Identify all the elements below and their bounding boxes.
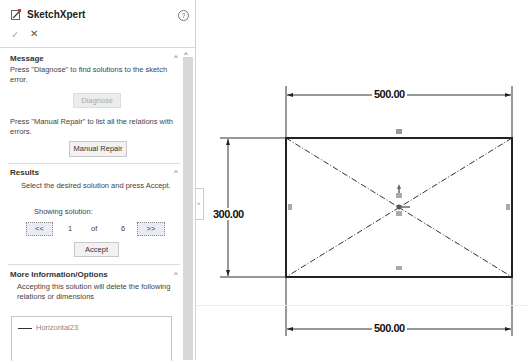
- total-solutions: 6: [121, 224, 125, 234]
- panel-collapse-tab[interactable]: »: [196, 188, 204, 220]
- vertical-relation-icon: [288, 204, 292, 210]
- divider: [8, 163, 180, 164]
- chevron-up-icon[interactable]: ^: [174, 270, 178, 279]
- panel-title: SketchXpert: [27, 9, 85, 20]
- dimension-top-value[interactable]: 500.00: [372, 88, 407, 100]
- manual-repair-text: Press "Manual Repair" to list all the re…: [10, 117, 180, 137]
- sketchxpert-icon: [11, 9, 22, 20]
- collapse-icon: »: [197, 200, 200, 206]
- of-label: of: [91, 224, 97, 234]
- relations-listbox[interactable]: Horizontal23: [11, 316, 172, 361]
- divider: [0, 47, 195, 48]
- message-section-title: Message: [10, 54, 44, 63]
- list-item[interactable]: Horizontal23: [18, 323, 78, 332]
- showing-solution-label: Showing solution:: [34, 207, 93, 217]
- previous-solution-button[interactable]: <<: [26, 222, 53, 236]
- chevron-up-icon[interactable]: ^: [174, 168, 178, 177]
- manual-repair-button[interactable]: Manual Repair: [69, 141, 127, 157]
- sketchxpert-panel: SketchXpert ? ✓ ✕ Message ^ Press "Diagn…: [0, 0, 196, 360]
- results-instruction: Select the desired solution and press Ac…: [21, 181, 181, 191]
- message-text: Press "Diagnose" to find solutions to th…: [10, 65, 180, 85]
- close-icon[interactable]: ✕: [30, 28, 38, 39]
- vertical-relation-icon: [506, 204, 510, 210]
- list-item-label: Horizontal23: [36, 323, 78, 332]
- next-solution-button[interactable]: >>: [137, 222, 165, 236]
- chevron-up-icon[interactable]: ^: [174, 53, 178, 62]
- results-section-title: Results: [10, 168, 39, 177]
- current-solution: 1: [68, 224, 72, 234]
- accept-button[interactable]: Accept: [74, 242, 119, 257]
- horizontal-relation-icon: [18, 328, 32, 329]
- divider: [8, 264, 180, 265]
- more-info-section-title: More Information/Options: [10, 270, 108, 279]
- more-info-text: Accepting this solution will delete the …: [17, 282, 177, 302]
- dimension-bottom-value[interactable]: 500.00: [372, 322, 407, 334]
- panel-titlebar: SketchXpert ?: [0, 0, 195, 30]
- parallel-relation-icon: [396, 129, 402, 134]
- horizontal-relation-icon: [396, 266, 402, 270]
- scrollbar[interactable]: [183, 57, 193, 360]
- diagnose-button[interactable]: Diagnose: [73, 93, 121, 108]
- checkmark-icon[interactable]: ✓: [11, 29, 19, 40]
- help-icon[interactable]: ?: [178, 10, 189, 21]
- dimension-left-value[interactable]: 300.00: [211, 208, 246, 220]
